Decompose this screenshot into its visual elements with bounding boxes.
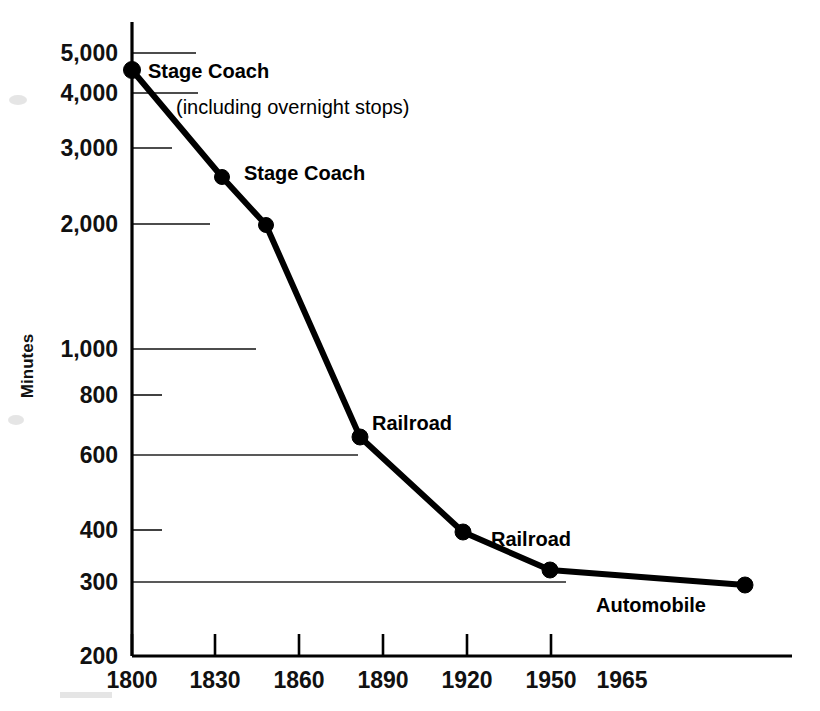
ytick-label-200: 200: [80, 643, 118, 669]
xtick-label-1965: 1965: [596, 667, 647, 693]
ytick-label-1000: 1,000: [60, 336, 118, 362]
chart-container: 5,000 4,000 3,000 2,000 1,000 800 600 40…: [0, 0, 820, 711]
ytick-label-5000: 5,000: [60, 40, 118, 66]
xtick-label-1860: 1860: [273, 667, 324, 693]
ytick-label-3000: 3,000: [60, 135, 118, 161]
ytick-label-400: 400: [80, 517, 118, 543]
annotation-railroad-1: Railroad: [372, 412, 452, 434]
data-point: [259, 218, 274, 233]
scan-artifact: [9, 95, 27, 105]
annotation-railroad-2: Railroad: [491, 528, 571, 550]
data-point: [352, 429, 368, 445]
data-point: [455, 524, 471, 540]
ytick-label-600: 600: [80, 442, 118, 468]
data-point: [542, 562, 558, 578]
y-axis-title: Minutes: [18, 334, 37, 398]
data-point: [124, 62, 141, 79]
ytick-label-4000: 4,000: [60, 80, 118, 106]
annotation-stage-coach-1: Stage Coach: [148, 60, 269, 82]
xtick-label-1800: 1800: [106, 667, 157, 693]
scan-artifact: [60, 692, 112, 698]
travel-time-line-chart: 5,000 4,000 3,000 2,000 1,000 800 600 40…: [0, 0, 820, 711]
ytick-label-2000: 2,000: [60, 211, 118, 237]
annotation-overnight-note: (including overnight stops): [176, 96, 409, 118]
ytick-label-800: 800: [80, 382, 118, 408]
data-line-travel-time: [132, 70, 745, 585]
xtick-label-1830: 1830: [189, 667, 240, 693]
xtick-label-1890: 1890: [357, 667, 408, 693]
scan-artifact: [8, 415, 24, 425]
xtick-label-1950: 1950: [525, 667, 576, 693]
annotation-stage-coach-2: Stage Coach: [244, 162, 365, 184]
xtick-label-1920: 1920: [441, 667, 492, 693]
data-point: [215, 170, 230, 185]
data-point: [737, 577, 753, 593]
ytick-label-300: 300: [80, 569, 118, 595]
annotation-automobile: Automobile: [596, 594, 706, 616]
